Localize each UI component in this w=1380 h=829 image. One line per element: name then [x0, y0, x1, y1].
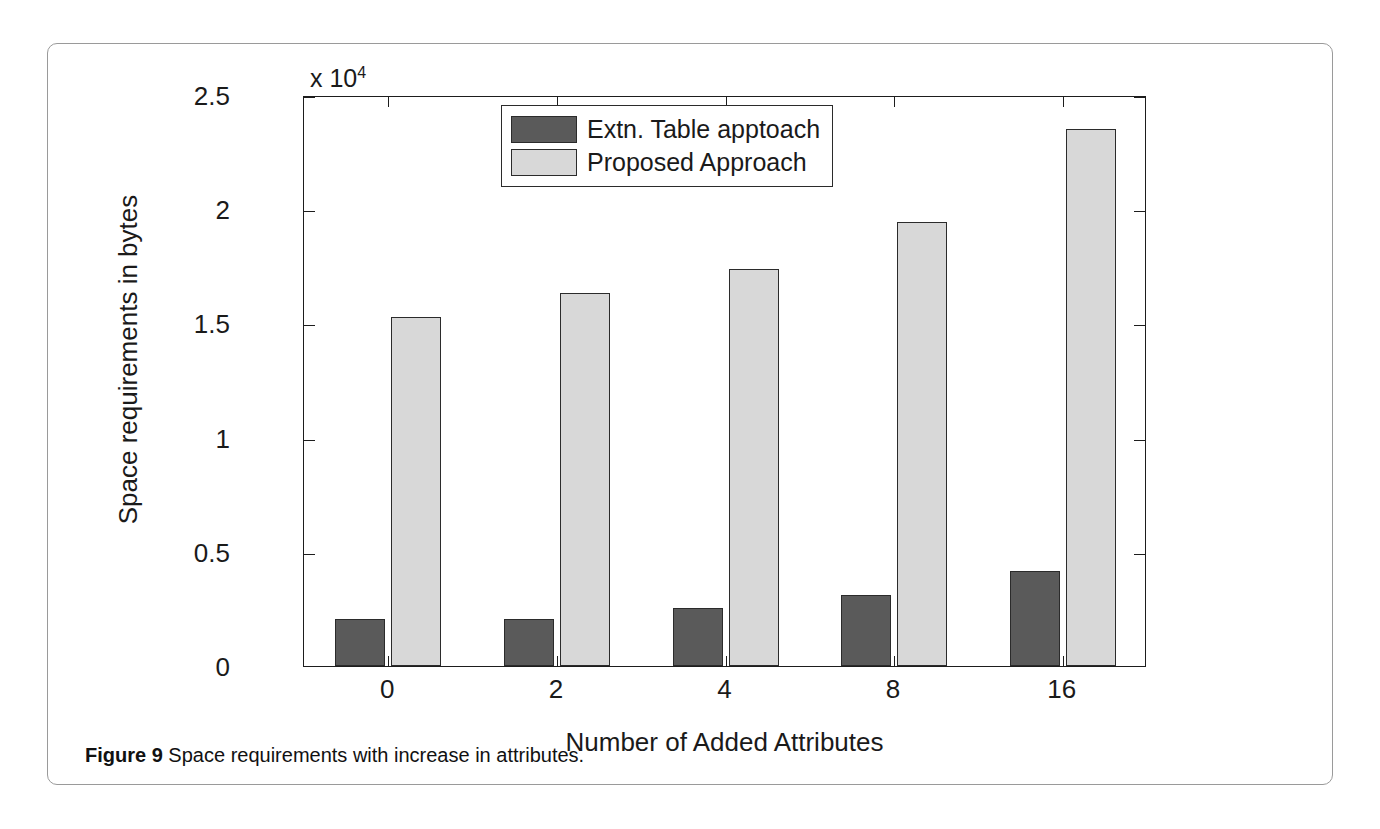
bar	[1066, 129, 1116, 666]
legend-item: Extn. Table apptoach	[511, 113, 820, 146]
bar	[897, 222, 947, 666]
figure-caption-text: Space requirements with increase in attr…	[168, 744, 584, 766]
y-axis-multiplier-base: x 10	[310, 64, 357, 92]
bar	[391, 317, 441, 666]
figure-caption-label: Figure 9	[85, 744, 163, 766]
bar	[1010, 571, 1060, 666]
y-axis-tick-label: 0.5	[90, 540, 230, 566]
bar	[504, 619, 554, 666]
x-axis-tick-label: 2	[496, 676, 616, 702]
legend-label: Extn. Table apptoach	[587, 117, 820, 142]
y-axis-tick-label: 2.5	[90, 83, 230, 109]
y-axis-tick-label: 2	[90, 197, 230, 223]
bar	[335, 619, 385, 666]
y-axis-multiplier-exponent: 4	[357, 64, 366, 81]
y-axis-tick-label: 0	[90, 654, 230, 680]
legend-label: Proposed Approach	[587, 150, 807, 175]
legend-swatch	[511, 149, 577, 176]
x-axis-tick-label: 8	[833, 676, 953, 702]
bar	[729, 269, 779, 666]
legend-item: Proposed Approach	[511, 146, 820, 179]
y-axis-tick-label: 1.5	[90, 311, 230, 337]
y-axis-tick-label: 1	[90, 426, 230, 452]
x-axis-tick-label: 4	[665, 676, 785, 702]
figure-card: x 104 Space requirements in bytes Number…	[47, 43, 1333, 785]
chart-plot: x 104 Space requirements in bytes Number…	[48, 44, 1334, 716]
chart-legend: Extn. Table apptoachProposed Approach	[501, 105, 833, 187]
bar	[560, 293, 610, 666]
figure-caption: Figure 9 Space requirements with increas…	[85, 744, 584, 767]
bar	[841, 595, 891, 666]
legend-swatch	[511, 116, 577, 143]
y-axis-title: Space requirements in bytes	[113, 120, 144, 600]
bar	[673, 608, 723, 666]
x-axis-tick-label: 16	[1002, 676, 1122, 702]
y-axis-multiplier: x 104	[310, 64, 366, 93]
x-axis-tick-label: 0	[327, 676, 447, 702]
